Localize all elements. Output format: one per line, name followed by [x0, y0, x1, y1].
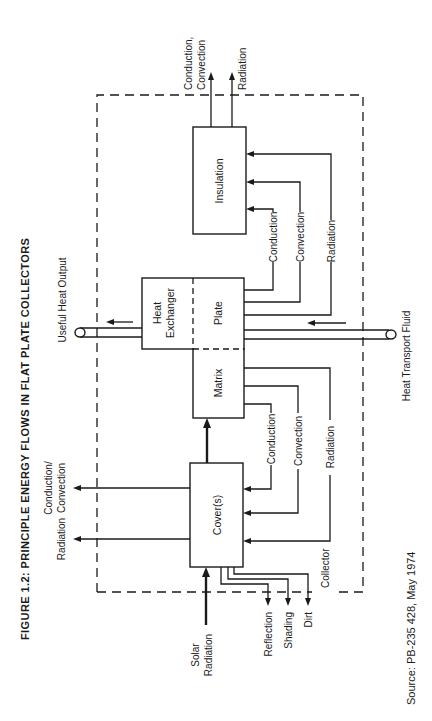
- useful-heat-output-pipe: [75, 319, 142, 337]
- covers-label: Cover(s): [211, 495, 223, 535]
- heat-exchanger-label-line2: Exchanger: [164, 287, 176, 338]
- plate-convection-label: Convection: [295, 212, 306, 262]
- figure-title: FIGURE 1.2: PRINCIPLE ENERGY FLOWS IN FL…: [19, 238, 31, 640]
- figure-source: Source: PB-235 428, May 1974: [405, 552, 417, 705]
- matrix-conduction-label: Conduction: [266, 414, 277, 465]
- plate-to-insulation-flows: [244, 151, 331, 315]
- matrix-convection-label: Convection: [293, 416, 304, 466]
- heat-transport-fluid-pipe: [244, 320, 396, 339]
- collector-label: Collector: [320, 548, 331, 588]
- cover-out-cc-line2: Convection: [56, 463, 67, 513]
- plate-conduction-label: Conduction: [268, 212, 279, 263]
- heat-exchanger-label-line1: Heat: [151, 302, 163, 324]
- insulation-out-radiation: Radiation: [237, 48, 248, 90]
- heat-transport-fluid-label: Heat Transport Fluid: [401, 311, 412, 402]
- matrix-to-cover-flows: [243, 368, 330, 544]
- solar-radiation-label-line2: Radiation: [203, 634, 214, 676]
- cover-out-radiation: Radiation: [56, 518, 67, 560]
- matrix-radiation-label: Radiation: [325, 426, 336, 468]
- reflection-label: Reflection: [263, 612, 274, 656]
- cover-loss-arrows: [221, 567, 311, 606]
- insulation-output-arrows: [208, 72, 235, 127]
- matrix-label: Matrix: [212, 368, 224, 397]
- plate-label: Plate: [212, 301, 224, 325]
- cover-output-arrows: [73, 485, 190, 542]
- cover-to-matrix-arrow: [203, 418, 211, 463]
- cover-out-cc-line1: Conduction/: [43, 461, 54, 515]
- useful-heat-output-label: Useful Heat Output: [57, 257, 68, 342]
- insulation-out-cc-line2: Convection: [196, 40, 207, 90]
- dirt-label: Dirt: [303, 612, 314, 628]
- insulation-label: Insulation: [213, 158, 225, 203]
- insulation-out-cc-line1: Conduction,: [183, 37, 194, 90]
- shading-label: Shading: [283, 612, 294, 649]
- energy-flow-diagram: FIGURE 1.2: PRINCIPLE ENERGY FLOWS IN FL…: [0, 0, 432, 721]
- plate-radiation-label: Radiation: [326, 220, 337, 262]
- solar-radiation-label-line1: Solar: [190, 643, 201, 667]
- solar-radiation-arrow: [202, 567, 210, 625]
